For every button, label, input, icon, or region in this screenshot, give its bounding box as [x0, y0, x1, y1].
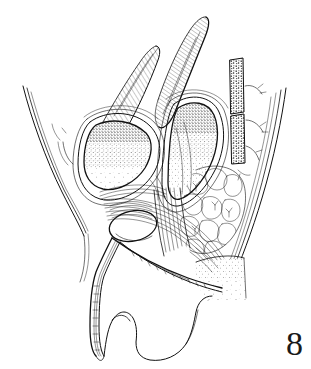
anatomy-line-drawing — [0, 0, 311, 369]
figure-illustration-panel: 8 — [0, 0, 311, 369]
figure-number-label: 8 — [286, 327, 303, 361]
